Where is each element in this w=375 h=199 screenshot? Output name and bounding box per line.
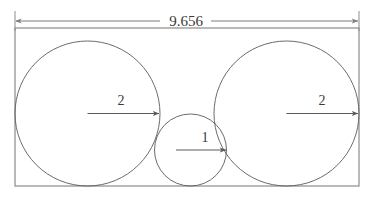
circles-in-rectangle-figure: 9.656 2 1 2	[0, 0, 375, 199]
diagram-canvas: 9.656 2 1 2	[0, 0, 375, 199]
overall-dimension-label: 9.656	[169, 13, 203, 29]
middle-circle-radius-label: 1	[202, 130, 209, 145]
left-circle-radius-annotation: 2	[88, 93, 160, 114]
overall-dimension: 9.656	[16, 13, 358, 29]
middle-circle-radius-annotation: 1	[176, 130, 226, 150]
right-circle-radius-label: 2	[319, 93, 326, 108]
left-circle-radius-label: 2	[118, 93, 125, 108]
right-circle-radius-annotation: 2	[287, 93, 359, 114]
bounding-rectangle	[15, 28, 359, 186]
